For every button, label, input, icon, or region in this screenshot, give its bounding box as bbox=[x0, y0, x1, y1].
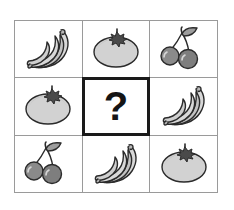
puzzle-cell-middle-left[interactable] bbox=[15, 78, 82, 134]
puzzle-grid: ? bbox=[14, 20, 218, 193]
bananas-icon bbox=[19, 25, 77, 73]
bananas-icon bbox=[155, 82, 213, 130]
puzzle-cell-top-left[interactable] bbox=[15, 21, 82, 77]
puzzle-cell-middle-right[interactable] bbox=[150, 78, 217, 134]
cherries-icon bbox=[19, 140, 77, 188]
fruit-matrix-puzzle: ? bbox=[0, 0, 234, 210]
puzzle-cell-bottom-right[interactable] bbox=[150, 136, 217, 192]
cherries-icon bbox=[155, 25, 213, 73]
puzzle-cell-top-center[interactable] bbox=[83, 21, 150, 77]
question-mark-placeholder: ? bbox=[104, 86, 128, 126]
bananas-icon bbox=[87, 140, 145, 188]
puzzle-cell-bottom-center[interactable] bbox=[83, 136, 150, 192]
puzzle-answer-cell[interactable]: ? bbox=[82, 77, 151, 135]
tomato-icon bbox=[87, 25, 145, 73]
puzzle-cell-top-right[interactable] bbox=[150, 21, 217, 77]
puzzle-cell-bottom-left[interactable] bbox=[15, 136, 82, 192]
tomato-icon bbox=[155, 140, 213, 188]
tomato-icon bbox=[19, 82, 77, 130]
